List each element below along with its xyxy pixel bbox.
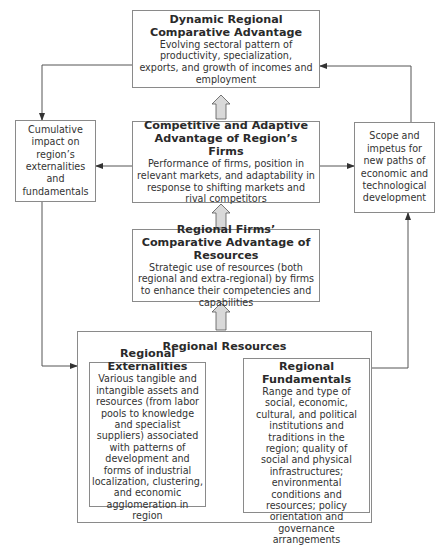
competitive-advantage-description: Performance of firms, position in releva… (137, 158, 315, 204)
arrow-left-to-resources (42, 202, 77, 366)
regional-fundamentals-title: Regional Fundamentals (246, 360, 367, 386)
firms-resources-description: Strategic use of resources (both regiona… (137, 262, 315, 308)
new-paths-text: Scope and impetus for new paths of econo… (355, 130, 434, 204)
regional-fundamentals-description: Range and type of social, economic, cult… (246, 386, 367, 546)
competitive-advantage-box: Competitive and Adaptive Advantage of Re… (132, 121, 320, 203)
dynamic-advantage-box: Dynamic Regional Comparative Advantage E… (132, 10, 320, 88)
regional-fundamentals-box: Regional Fundamentals Range and type of … (243, 358, 370, 513)
firms-resources-title: Regional Firms’ Comparative Advantage of… (137, 223, 315, 262)
dynamic-advantage-title: Dynamic Regional Comparative Advantage (139, 13, 313, 39)
dynamic-advantage-description: Evolving sectoral pattern of productivit… (139, 39, 313, 85)
block-arrow-up-1 (212, 95, 230, 119)
arrow-resources-to-right (372, 213, 408, 368)
arrow-top-to-left (42, 65, 132, 120)
regional-externalities-title: Regional Externalities (92, 347, 203, 373)
regional-externalities-description: Various tangible and intangible assets a… (92, 373, 203, 521)
regional-externalities-box: Regional Externalities Various tangible … (89, 362, 206, 507)
competitive-advantage-title: Competitive and Adaptive Advantage of Re… (137, 119, 315, 158)
firms-resources-box: Regional Firms’ Comparative Advantage of… (132, 229, 320, 302)
arrow-right-to-top (320, 66, 411, 122)
cumulative-impact-text: Cumulative impact on region’s externalit… (16, 124, 95, 198)
new-paths-box: Scope and impetus for new paths of econo… (354, 122, 435, 213)
cumulative-impact-box: Cumulative impact on region’s externalit… (15, 120, 96, 202)
